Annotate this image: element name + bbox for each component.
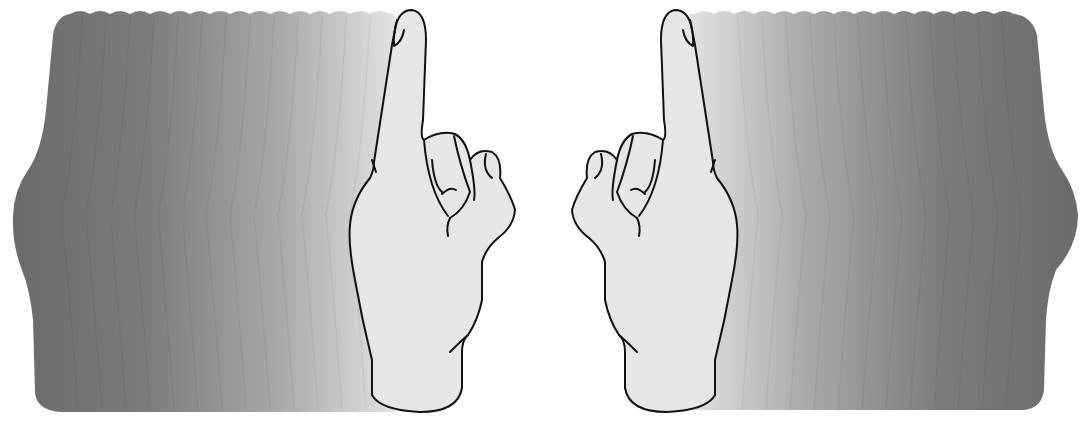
- hands-illustration: [0, 0, 1084, 444]
- left-motion-trail: [13, 11, 395, 412]
- right-motion-trail: [689, 11, 1078, 410]
